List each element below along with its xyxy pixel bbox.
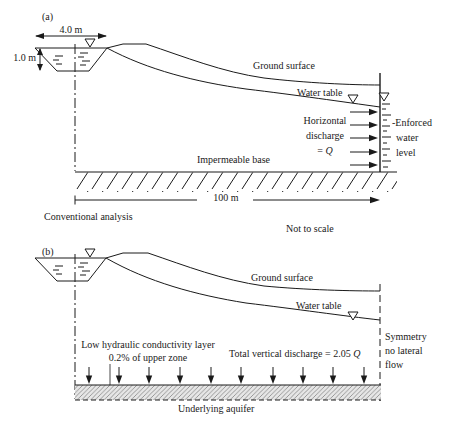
symmetry-label: Symmetry no lateral flow <box>385 330 427 372</box>
enforced-water-level-label: -Enforced water level <box>392 115 432 160</box>
depth-dim-label: 1.0 m <box>2 52 36 64</box>
water-table-label-b: Water table <box>296 300 342 312</box>
ground-surface-curve-a <box>107 44 380 85</box>
canal-a <box>35 48 107 71</box>
seepage-figure: (a) 4.0 m 1.0 m Ground surface Water tab… <box>0 0 452 430</box>
canal-water-dashes-b <box>53 263 90 275</box>
water-table-label-a: Water table <box>297 87 343 99</box>
width-dim-label: 4.0 m <box>35 24 107 36</box>
low-conductivity-label: Low hydraulic conductivity layer 0.2% of… <box>58 338 238 364</box>
water-level-icon <box>348 95 358 103</box>
horizontal-discharge-label: Horizontal discharge = Q <box>294 113 356 158</box>
water-gauge-dashes <box>382 104 391 167</box>
impermeable-base-label: Impermeable base <box>197 154 270 166</box>
panel-b-drawing <box>35 253 380 404</box>
impermeable-base-hatch <box>75 173 397 193</box>
ground-surface-label-a: Ground surface <box>253 60 315 72</box>
water-level-icon <box>85 39 95 47</box>
canal-b <box>35 258 106 281</box>
canal-water-dashes-a <box>53 53 90 65</box>
total-vertical-discharge-label: Total vertical discharge = 2.05 Q <box>229 348 360 360</box>
vertical-discharge-arrows <box>86 367 367 384</box>
not-to-scale-note: Not to scale <box>286 223 334 235</box>
low-conductivity-layer <box>75 385 381 400</box>
panel-a-label: (a) <box>42 11 53 23</box>
water-level-icon <box>85 249 95 257</box>
panel-b-label: (b) <box>42 246 54 258</box>
ground-surface-curve-b <box>106 253 380 291</box>
water-level-icons-a <box>85 39 389 103</box>
underlying-aquifer-label: Underlying aquifer <box>178 403 254 415</box>
caption-conventional-analysis: Conventional analysis <box>44 211 133 223</box>
ground-surface-label-b: Ground surface <box>251 272 313 284</box>
length-dim-label: 100 m <box>199 192 253 204</box>
